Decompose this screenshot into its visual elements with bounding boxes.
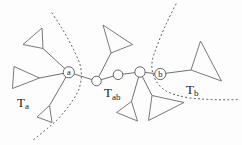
- separator-curve-right: [152, 4, 237, 100]
- triangle-b-right: [191, 41, 222, 81]
- triangle-a-bottom: [37, 106, 52, 123]
- triangle-c3-bottomleft: [117, 102, 138, 122]
- node-c2-circle: [113, 70, 123, 80]
- triangle-c1-top: [103, 25, 133, 53]
- triangle-c3-bottomright: [149, 96, 185, 121]
- path-nodes: a b: [63, 67, 166, 86]
- triangle-a-topleft: [23, 28, 43, 49]
- node-c1-circle: [92, 76, 102, 86]
- separator-curve-left: [33, 13, 81, 140]
- region-label-tb: Tb: [186, 82, 199, 99]
- region-label-tab: Tab: [104, 85, 121, 102]
- region-label-ta: Ta: [17, 95, 29, 112]
- diagram-svg: a b Ta Tab Tb: [0, 0, 242, 145]
- node-b-letter: b: [158, 69, 162, 79]
- tree-split-diagram: a b Ta Tab Tb: [0, 0, 242, 145]
- region-labels: Ta Tab Tb: [17, 82, 199, 112]
- node-a-letter: a: [67, 67, 71, 77]
- triangle-a-left: [13, 67, 40, 89]
- node-c3-circle: [135, 67, 145, 77]
